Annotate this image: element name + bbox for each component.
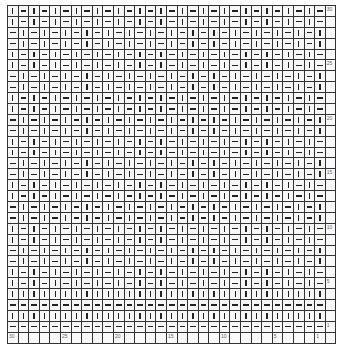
purl-stitch-icon bbox=[273, 300, 284, 311]
purl-stitch-icon bbox=[220, 202, 231, 213]
purl-stitch-icon bbox=[114, 202, 125, 213]
knit-stitch-icon bbox=[315, 115, 326, 126]
purl-stitch-icon bbox=[72, 28, 83, 39]
knit-stitch-icon bbox=[262, 267, 273, 278]
purl-stitch-icon bbox=[156, 169, 167, 180]
knit-stitch-icon bbox=[305, 311, 316, 322]
knit-stitch-icon bbox=[167, 202, 178, 213]
knit-stitch-icon bbox=[72, 104, 83, 115]
purl-stitch-icon bbox=[305, 115, 316, 126]
row-number: 20 bbox=[327, 116, 333, 121]
purl-stitch-icon bbox=[220, 256, 231, 267]
purl-stitch-icon bbox=[209, 60, 220, 71]
purl-stitch-icon bbox=[146, 6, 157, 17]
purl-stitch-icon bbox=[72, 115, 83, 126]
knit-stitch-icon bbox=[230, 289, 241, 300]
knit-stitch-icon bbox=[146, 169, 157, 180]
column-number: 5 bbox=[274, 334, 277, 339]
knit-stitch-icon bbox=[262, 137, 273, 148]
purl-stitch-icon bbox=[315, 6, 326, 17]
purl-stitch-icon bbox=[156, 256, 167, 267]
purl-stitch-icon bbox=[241, 256, 252, 267]
knit-stitch-icon bbox=[93, 17, 104, 28]
knit-stitch-icon bbox=[50, 278, 61, 289]
purl-stitch-icon bbox=[262, 213, 273, 224]
purl-stitch-icon bbox=[114, 256, 125, 267]
purl-stitch-icon bbox=[262, 322, 273, 333]
purl-stitch-icon bbox=[82, 300, 93, 311]
knit-stitch-icon bbox=[230, 39, 241, 50]
purl-stitch-icon bbox=[93, 28, 104, 39]
knit-stitch-icon bbox=[146, 82, 157, 93]
row-label-cell bbox=[326, 148, 337, 159]
purl-stitch-icon bbox=[19, 17, 30, 28]
knit-stitch-icon bbox=[146, 126, 157, 137]
row-label-cell bbox=[326, 256, 337, 267]
purl-stitch-icon bbox=[135, 158, 146, 169]
knit-stitch-icon bbox=[209, 213, 220, 224]
knit-stitch-icon bbox=[103, 169, 114, 180]
knit-stitch-icon bbox=[220, 180, 231, 191]
knit-stitch-icon bbox=[50, 104, 61, 115]
purl-stitch-icon bbox=[209, 300, 220, 311]
column-label-cell bbox=[199, 333, 210, 344]
purl-stitch-icon bbox=[178, 169, 189, 180]
column-label-cell bbox=[252, 333, 263, 344]
purl-stitch-icon bbox=[262, 82, 273, 93]
purl-stitch-icon bbox=[305, 246, 316, 257]
purl-stitch-icon bbox=[40, 191, 51, 202]
purl-stitch-icon bbox=[61, 191, 72, 202]
purl-stitch-icon bbox=[188, 148, 199, 159]
knit-stitch-icon bbox=[29, 180, 40, 191]
knit-stitch-icon bbox=[220, 93, 231, 104]
knit-stitch-icon bbox=[93, 50, 104, 61]
purl-stitch-icon bbox=[156, 115, 167, 126]
purl-stitch-icon bbox=[273, 60, 284, 71]
column-label-cell bbox=[294, 333, 305, 344]
knit-stitch-icon bbox=[241, 104, 252, 115]
row-label-cell bbox=[326, 202, 337, 213]
knit-stitch-icon bbox=[178, 17, 189, 28]
knit-stitch-icon bbox=[230, 82, 241, 93]
purl-stitch-icon bbox=[188, 60, 199, 71]
knit-stitch-icon bbox=[50, 267, 61, 278]
purl-stitch-icon bbox=[209, 235, 220, 246]
purl-stitch-icon bbox=[61, 322, 72, 333]
knit-stitch-icon bbox=[125, 202, 136, 213]
knit-stitch-icon bbox=[305, 6, 316, 17]
column-label-cell bbox=[156, 333, 167, 344]
knit-stitch-icon bbox=[135, 104, 146, 115]
purl-stitch-icon bbox=[262, 39, 273, 50]
purl-stitch-icon bbox=[40, 17, 51, 28]
knit-stitch-icon bbox=[8, 224, 19, 235]
knit-stitch-icon bbox=[241, 6, 252, 17]
purl-stitch-icon bbox=[29, 115, 40, 126]
knit-stitch-icon bbox=[61, 213, 72, 224]
knit-stitch-icon bbox=[241, 224, 252, 235]
purl-stitch-icon bbox=[114, 213, 125, 224]
purl-stitch-icon bbox=[220, 71, 231, 82]
knit-stitch-icon bbox=[93, 311, 104, 322]
purl-stitch-icon bbox=[262, 115, 273, 126]
purl-stitch-icon bbox=[178, 322, 189, 333]
knit-stitch-icon bbox=[199, 289, 210, 300]
knit-stitch-icon bbox=[82, 39, 93, 50]
purl-stitch-icon bbox=[199, 28, 210, 39]
knit-stitch-icon bbox=[135, 17, 146, 28]
purl-stitch-icon bbox=[199, 39, 210, 50]
knit-stitch-icon bbox=[114, 278, 125, 289]
knit-stitch-icon bbox=[61, 311, 72, 322]
purl-stitch-icon bbox=[294, 50, 305, 61]
purl-stitch-icon bbox=[50, 202, 61, 213]
knit-stitch-icon bbox=[40, 39, 51, 50]
knit-stitch-icon bbox=[252, 256, 263, 267]
knit-stitch-icon bbox=[72, 235, 83, 246]
knit-stitch-icon bbox=[252, 158, 263, 169]
purl-stitch-icon bbox=[8, 213, 19, 224]
purl-stitch-icon bbox=[273, 50, 284, 61]
column-number: 10 bbox=[221, 334, 227, 339]
purl-stitch-icon bbox=[178, 28, 189, 39]
purl-stitch-icon bbox=[156, 158, 167, 169]
knit-stitch-icon bbox=[178, 93, 189, 104]
purl-stitch-icon bbox=[103, 17, 114, 28]
